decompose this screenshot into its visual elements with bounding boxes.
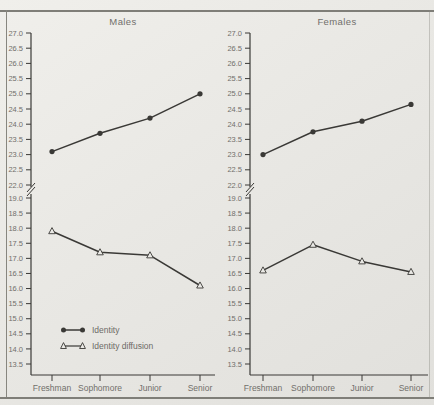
x-category-label: Junior [138, 383, 161, 393]
identity-legend-marker [60, 324, 86, 336]
chart-title-females: Females [317, 16, 356, 27]
y-tick-label: 16.5 [8, 269, 23, 278]
series-line-identity-diffusion [263, 245, 411, 272]
y-tick-label: 23.0 [227, 150, 242, 159]
marker-identity [310, 129, 315, 134]
y-tick-label: 19.0 [8, 194, 23, 203]
y-tick-label: 25.0 [8, 89, 23, 98]
y-tick-label: 16.5 [227, 269, 242, 278]
y-tick-label: 19.0 [227, 194, 242, 203]
legend-label-identity: Identity [92, 325, 119, 335]
x-category-label: Junior [350, 383, 373, 393]
y-tick-label: 18.0 [227, 224, 242, 233]
y-tick-label: 15.5 [227, 299, 242, 308]
y-tick-label: 18.5 [227, 209, 242, 218]
y-tick-label: 13.5 [227, 360, 242, 369]
x-category-label: Sophomore [291, 383, 335, 393]
y-tick-label: 14.5 [227, 329, 242, 338]
y-tick-label: 14.0 [8, 345, 23, 354]
y-tick-label: 15.0 [8, 314, 23, 323]
legend-label-identity-diffusion: Identity diffusion [92, 341, 153, 351]
y-tick-label: 15.5 [8, 299, 23, 308]
x-category-label: Senior [399, 383, 424, 393]
marker-identity [260, 152, 265, 157]
legend-item-identity: Identity [60, 324, 119, 336]
y-tick-label: 26.5 [8, 44, 23, 53]
y-tick-label: 22.5 [8, 165, 23, 174]
y-tick-label: 26.0 [8, 59, 23, 68]
series-line-identity-diffusion [52, 231, 200, 285]
series-line-identity [52, 94, 200, 152]
marker-identity [97, 131, 102, 136]
x-category-label: Sophomore [78, 383, 122, 393]
y-tick-label: 14.5 [8, 329, 23, 338]
marker-identity [197, 91, 202, 96]
y-tick-label: 27.0 [8, 29, 23, 38]
y-tick-label: 17.5 [8, 239, 23, 248]
marker-identity [359, 119, 364, 124]
x-category-label: Freshman [244, 383, 283, 393]
identity-diffusion-legend-marker [60, 340, 86, 352]
y-tick-label: 17.0 [227, 254, 242, 263]
y-tick-label: 22.5 [227, 165, 242, 174]
marker-identity-diffusion [49, 228, 56, 234]
y-tick-label: 17.0 [8, 254, 23, 263]
y-tick-label: 23.5 [227, 135, 242, 144]
x-category-label: Senior [188, 383, 213, 393]
y-tick-label: 16.0 [8, 284, 23, 293]
y-tick-label: 23.0 [8, 150, 23, 159]
y-tick-label: 18.5 [8, 209, 23, 218]
y-tick-label: 25.5 [8, 74, 23, 83]
y-tick-label: 16.0 [227, 284, 242, 293]
y-tick-label: 26.5 [227, 44, 242, 53]
y-tick-label: 17.5 [227, 239, 242, 248]
chart-panel-females: 27.026.526.025.525.024.524.023.523.022.5… [227, 29, 428, 393]
y-tick-label: 24.0 [8, 120, 23, 129]
y-tick-label: 14.0 [227, 345, 242, 354]
y-tick-label: 24.5 [227, 105, 242, 114]
x-category-label: Freshman [33, 383, 72, 393]
marker-identity-diffusion [310, 241, 317, 247]
y-tick-label: 23.5 [8, 135, 23, 144]
chart-title-males: Males [109, 16, 136, 27]
marker-identity [147, 116, 152, 121]
y-tick-label: 24.0 [227, 120, 242, 129]
y-tick-label: 18.0 [8, 224, 23, 233]
y-tick-label: 22.0 [8, 181, 23, 190]
y-tick-label: 13.5 [8, 360, 23, 369]
y-tick-label: 25.5 [227, 74, 242, 83]
series-line-identity [263, 104, 411, 154]
legend-item-identity-diffusion: Identity diffusion [60, 340, 153, 352]
y-tick-label: 26.0 [227, 59, 242, 68]
marker-identity [408, 102, 413, 107]
y-tick-label: 27.0 [227, 29, 242, 38]
chart-panel-males: 27.026.526.025.525.024.524.023.523.022.5… [8, 29, 215, 393]
y-tick-label: 25.0 [227, 89, 242, 98]
y-tick-label: 15.0 [227, 314, 242, 323]
y-tick-label: 24.5 [8, 105, 23, 114]
marker-identity [49, 149, 54, 154]
figure-canvas: 27.026.526.025.525.024.524.023.523.022.5… [0, 0, 434, 405]
y-tick-label: 22.0 [227, 181, 242, 190]
